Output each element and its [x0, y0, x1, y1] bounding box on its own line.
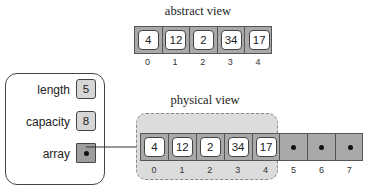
capacity-value: 8 — [76, 111, 96, 131]
abstract-array: 4 12 2 34 17 — [134, 26, 272, 54]
physical-cell: 4 — [141, 134, 169, 160]
physical-index: 4 — [252, 165, 279, 175]
empty-slot — [281, 134, 309, 160]
length-label: length — [10, 83, 70, 97]
physical-index: 6 — [308, 165, 335, 175]
physical-view-title: physical view — [150, 93, 260, 108]
abstract-index: 2 — [189, 57, 216, 67]
physical-array: 4 12 2 34 17 — [140, 133, 363, 161]
empty-dot-icon — [348, 145, 353, 150]
empty-dot-icon — [319, 145, 324, 150]
cell-value: 17 — [256, 137, 277, 157]
abstract-index: 4 — [244, 57, 271, 67]
physical-cell: 34 — [225, 134, 253, 160]
physical-cell: 12 — [169, 134, 197, 160]
cell-value: 4 — [138, 30, 159, 50]
abstract-index: 0 — [134, 57, 161, 67]
physical-index: 1 — [168, 165, 195, 175]
abstract-index: 3 — [217, 57, 244, 67]
abstract-cell: 2 — [190, 27, 218, 53]
cell-value: 4 — [144, 137, 165, 157]
abstract-index: 1 — [162, 57, 189, 67]
capacity-label: capacity — [10, 115, 70, 129]
physical-index: 3 — [224, 165, 251, 175]
empty-slot — [308, 134, 336, 160]
cell-value: 2 — [200, 137, 221, 157]
abstract-cell: 17 — [245, 27, 273, 53]
abstract-view-title: abstract view — [148, 4, 248, 19]
cell-value: 12 — [165, 30, 186, 50]
abstract-cell: 12 — [163, 27, 191, 53]
physical-index: 7 — [336, 165, 363, 175]
physical-cell: 17 — [253, 134, 281, 160]
empty-dot-icon — [291, 145, 296, 150]
abstract-cell: 4 — [135, 27, 163, 53]
cell-value: 12 — [172, 137, 193, 157]
cell-value: 2 — [193, 30, 214, 50]
length-value: 5 — [76, 79, 96, 99]
array-label: array — [10, 147, 70, 161]
cell-value: 34 — [228, 137, 249, 157]
cell-value: 17 — [249, 30, 270, 50]
cell-value: 34 — [221, 30, 242, 50]
physical-cell: 2 — [197, 134, 225, 160]
abstract-cell: 34 — [218, 27, 246, 53]
physical-index: 5 — [280, 165, 307, 175]
physical-index: 0 — [141, 165, 168, 175]
empty-slot — [336, 134, 364, 160]
physical-index: 2 — [196, 165, 223, 175]
